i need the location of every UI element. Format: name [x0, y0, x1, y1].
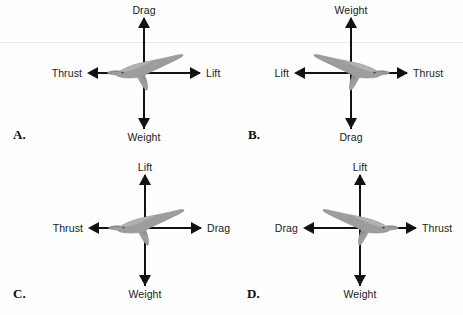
force-label-up: Lift — [353, 161, 367, 173]
option-letter-c: C. — [13, 286, 26, 302]
arrowhead-down-icon — [345, 118, 357, 129]
arrowhead-left-icon — [303, 222, 314, 234]
figure-canvas: Drag Weight Thrust Lift A. Weight Drag L… — [0, 0, 463, 315]
option-letter-d: D. — [247, 286, 260, 302]
arrowhead-down-icon — [139, 275, 151, 286]
option-letter-a: A. — [13, 127, 26, 143]
arrowhead-up-icon — [345, 17, 357, 28]
bird-silhouette-icon — [313, 52, 391, 92]
force-label-left: Drag — [264, 222, 298, 234]
arrowhead-right-icon — [190, 67, 201, 79]
force-label-up: Lift — [138, 161, 152, 173]
force-label-up: Weight — [334, 4, 367, 16]
force-label-down: Weight — [128, 288, 161, 300]
bird-silhouette-icon — [107, 207, 185, 247]
arrowhead-down-icon — [354, 275, 366, 286]
force-label-down: Weight — [127, 131, 160, 143]
force-label-up: Drag — [132, 4, 155, 16]
option-panel-d[interactable]: Lift Weight Drag Thrust D. — [232, 157, 463, 314]
arrowhead-left-icon — [88, 222, 99, 234]
force-label-down: Weight — [343, 288, 376, 300]
option-letter-b: B. — [248, 127, 260, 143]
force-label-right: Drag — [207, 222, 230, 234]
arrowhead-left-icon — [87, 67, 98, 79]
option-panel-a[interactable]: Drag Weight Thrust Lift A. — [0, 0, 231, 157]
arrowhead-up-icon — [138, 17, 150, 28]
arrowhead-up-icon — [139, 174, 151, 185]
force-label-right: Lift — [206, 67, 220, 79]
bird-silhouette-icon — [322, 207, 400, 247]
force-label-right: Thrust — [422, 222, 452, 234]
force-label-left: Lift — [256, 67, 289, 79]
arrowhead-up-icon — [354, 174, 366, 185]
force-label-left: Thrust — [48, 67, 82, 79]
arrowhead-right-icon — [397, 67, 408, 79]
arrowhead-right-icon — [191, 222, 202, 234]
arrowhead-left-icon — [294, 67, 305, 79]
bird-silhouette-icon — [106, 52, 184, 92]
option-panel-b[interactable]: Weight Drag Lift Thrust B. — [232, 0, 463, 157]
arrowhead-right-icon — [406, 222, 417, 234]
arrowhead-down-icon — [138, 118, 150, 129]
force-label-right: Thrust — [413, 67, 443, 79]
option-panel-c[interactable]: Lift Weight Thrust Drag C. — [0, 157, 231, 314]
force-label-left: Thrust — [49, 222, 83, 234]
force-label-down: Drag — [339, 131, 362, 143]
